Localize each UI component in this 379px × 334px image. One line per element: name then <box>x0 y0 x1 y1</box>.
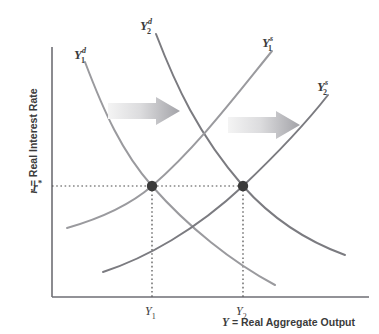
y1-tick-label: Y1 <box>145 302 156 321</box>
demand-shift-arrow <box>108 97 180 125</box>
curve-label-demand-2: Yd2 <box>140 17 151 36</box>
supply-shift-arrow <box>228 111 300 139</box>
equilibrium-point-2 <box>238 181 248 191</box>
demand-curve-1 <box>85 62 275 285</box>
plot-canvas <box>0 0 379 334</box>
curve-label-supply-1: Ys1 <box>262 34 272 53</box>
equilibrium-point-1 <box>147 181 157 191</box>
x-axis-title: Y = Real Aggregate Output <box>222 316 355 328</box>
demand-curve-2 <box>156 34 345 255</box>
curve-label-supply-2: Ys2 <box>317 78 327 97</box>
supply-curve-1 <box>67 51 272 228</box>
economics-diagram-figure: Yd1 Yd2 Ys1 Ys2 r* Y1 Y2 r = Real Intere… <box>0 0 379 334</box>
y-axis-title: r = Real Interest Rate <box>27 46 39 236</box>
curve-label-demand-1: Yd1 <box>74 46 85 65</box>
